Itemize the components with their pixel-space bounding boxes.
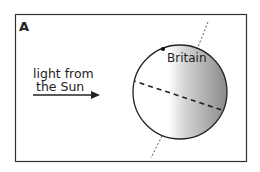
britain-label: Britain xyxy=(167,51,207,65)
panel-label: A xyxy=(19,19,29,34)
earth-diagram: A light from the Sun Britain xyxy=(0,0,260,172)
britain-marker-icon xyxy=(161,47,165,51)
light-text-line2: the Sun xyxy=(36,79,84,94)
